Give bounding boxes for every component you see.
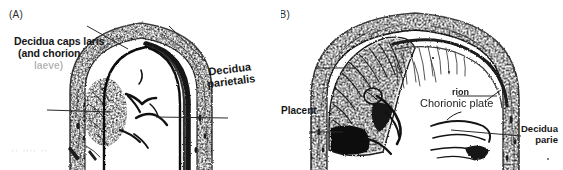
- panel-label-a: (A): [9, 9, 23, 20]
- annotation-decidua-parietalis-b: Decidua parie: [521, 124, 558, 145]
- annotation-line: parie: [521, 135, 558, 146]
- annotation-decidua-capsularis: Decidua caps laris (and chorion laeve): [14, 36, 104, 71]
- annotation-placenta: Placent: [281, 105, 317, 116]
- scan-speck-b: [547, 158, 549, 160]
- panel-a: (A) Decidua caps laris (and chorion laev…: [0, 0, 281, 170]
- annotation-line: Chorionic plate: [420, 97, 493, 109]
- annotation-line: Decidua: [521, 123, 558, 134]
- annotation-chorion-fragment: rion: [452, 87, 469, 97]
- figure-container: (A) Decidua caps laris (and chorion laev…: [0, 0, 563, 170]
- annotation-line-faded: laeve): [14, 60, 104, 72]
- panel-label-b: (B): [281, 9, 290, 20]
- annotation-line: Decidua caps laris: [14, 35, 104, 47]
- annotation-line: rion: [452, 87, 469, 97]
- annotation-line: Placent: [281, 105, 317, 116]
- annotation-chorionic-plate: Chorionic plate: [420, 97, 493, 109]
- scan-smudge-a: '' '''' '': [12, 148, 49, 157]
- annotation-line: (and chorion: [14, 48, 104, 60]
